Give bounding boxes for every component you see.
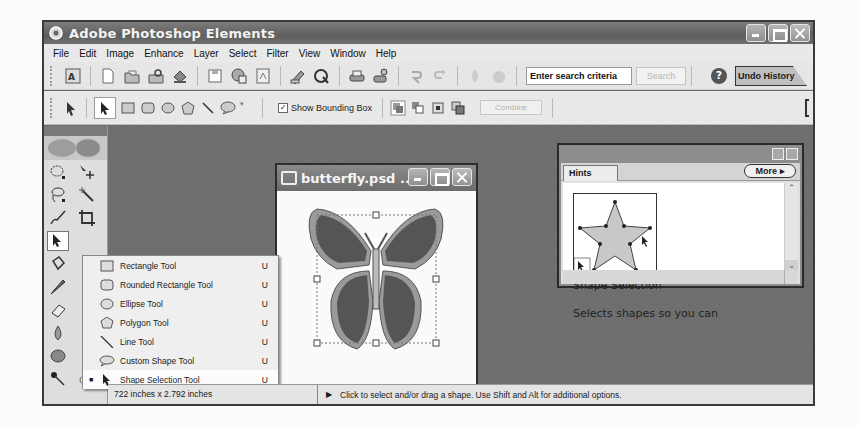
browse-icon[interactable] [147,67,165,85]
brush-tool-icon[interactable] [47,277,69,297]
resize-grip-icon[interactable] [784,270,798,284]
help-icon[interactable]: ? [711,68,727,84]
maximize-button[interactable] [768,24,788,42]
pdf-icon[interactable] [254,67,272,85]
menu-select[interactable]: Select [224,48,262,59]
menu-enhance[interactable]: Enhance [139,48,188,59]
line-tool-icon [99,336,115,348]
step-backward-icon[interactable] [466,67,484,85]
menu-help[interactable]: Help [371,48,402,59]
menu-window[interactable]: Window [325,48,371,59]
flyout-item-rounded-rectangle-tool[interactable]: Rounded Rectangle Tool U [83,275,278,294]
separator [339,66,340,86]
document-title-bar[interactable]: butterfly.psd ... [277,165,476,191]
palette-minimize-button[interactable] [772,148,784,160]
rounded-rectangle-tool-icon[interactable] [140,100,156,116]
crop-tool-icon[interactable] [76,208,98,228]
flyout-item-custom-shape-tool[interactable]: Custom Shape Tool U [83,351,278,370]
new-shape-area-icon[interactable] [390,100,406,116]
options-grip[interactable] [50,98,53,118]
line-tool-icon[interactable] [200,100,216,116]
flyout-item-rectangle-tool[interactable]: Rectangle Tool U [83,256,278,275]
minimize-button[interactable] [746,24,766,42]
flyout-item-polygon-tool[interactable]: Polygon Tool U [83,313,278,332]
adobe-logo-icon[interactable]: A [64,67,82,85]
move-tool-icon[interactable] [76,162,98,182]
open-folder-icon[interactable] [123,67,141,85]
sponge-tool-icon[interactable] [47,346,69,366]
search-button[interactable]: Search [636,67,686,85]
flyout-item-ellipse-tool[interactable]: Ellipse Tool U [83,294,278,313]
paint-bucket-tool-icon[interactable] [47,254,69,274]
eraser-tool-icon[interactable] [47,300,69,320]
status-menu-arrow-icon[interactable]: ▶ [326,390,332,399]
polygon-tool-icon[interactable] [180,100,196,116]
doc-minimize-button[interactable] [408,168,428,186]
checkbox-icon[interactable]: ✓ [278,103,288,113]
lasso-tool-icon[interactable] [47,185,69,205]
rectangle-tool-icon[interactable] [120,100,136,116]
butterfly-shape[interactable] [277,191,476,387]
combine-button[interactable]: Combine [480,100,542,115]
show-bounding-box-checkbox[interactable]: ✓ Show Bounding Box [278,103,372,113]
print-icon[interactable] [348,67,366,85]
menu-image[interactable]: Image [101,48,139,59]
flyout-item-line-tool[interactable]: Line Tool U [83,332,278,351]
shortcuts-toolbar: A [44,62,813,90]
step-forward-icon[interactable] [490,67,508,85]
redo-icon[interactable] [431,67,449,85]
add-to-shape-area-icon[interactable] [410,100,426,116]
separator [516,66,517,86]
hints-content: Shape Selection Selects shapes so you ca… [563,183,784,270]
print-preview-icon[interactable] [289,67,307,85]
separator [86,98,87,118]
more-button[interactable]: More ▸ [744,164,796,178]
menu-file[interactable]: File [48,48,74,59]
separator [457,66,458,86]
menu-filter[interactable]: Filter [261,48,293,59]
status-bar: 722 inches x 2.792 inches ▶ Click to sel… [108,384,813,404]
toolbox-header[interactable] [44,126,107,136]
magic-wand-tool-icon[interactable] [76,185,98,205]
new-document-icon[interactable] [99,67,117,85]
document-canvas[interactable] [277,191,476,387]
palette-close-button[interactable] [786,148,798,160]
print-online-icon[interactable] [372,67,390,85]
blur-tool-icon[interactable] [47,323,69,343]
doc-maximize-button[interactable] [430,168,450,186]
separator [280,66,281,86]
online-services-icon[interactable] [313,67,331,85]
custom-shape-tool-icon[interactable] [220,100,236,116]
eyedropper-tool-icon[interactable] [47,369,69,389]
scroll-down-icon[interactable]: ⌄ [785,260,798,270]
save-for-web-icon[interactable] [230,67,248,85]
document-title: butterfly.psd ... [301,171,415,186]
toolbar-grip[interactable] [50,66,53,86]
search-input[interactable] [526,67,632,85]
subtract-shape-area-icon[interactable] [430,100,446,116]
intersect-shape-area-icon[interactable] [450,100,466,116]
shape-selection-tool-option[interactable] [94,97,116,119]
close-button[interactable] [790,24,810,42]
scroll-up-icon[interactable]: ⌃ [785,183,798,193]
color-swatches[interactable] [44,136,107,160]
hints-scrollbar[interactable]: ⌃ ⌄ [784,183,798,270]
marquee-tool-icon[interactable] [47,162,69,182]
ellipse-tool-icon[interactable] [160,100,176,116]
chevron-down-icon[interactable]: ▾ [240,100,248,116]
doc-close-button[interactable] [452,168,472,186]
title-bar[interactable]: Adobe Photoshop Elements [44,22,813,44]
shape-selection-tool-icon[interactable] [47,231,69,251]
menu-edit[interactable]: Edit [74,48,101,59]
document-window: butterfly.psd ... [275,163,478,389]
save-icon[interactable] [206,67,224,85]
undo-history-tab[interactable]: Undo History [735,66,807,86]
menu-layer[interactable]: Layer [189,48,224,59]
arrow-icon[interactable] [63,100,79,116]
hints-description: Selects shapes so you can [573,307,718,320]
hints-tab[interactable]: Hints [563,165,618,181]
menu-view[interactable]: View [294,48,326,59]
undo-icon[interactable] [407,67,425,85]
selection-brush-tool-icon[interactable] [47,208,69,228]
import-icon[interactable] [171,67,189,85]
